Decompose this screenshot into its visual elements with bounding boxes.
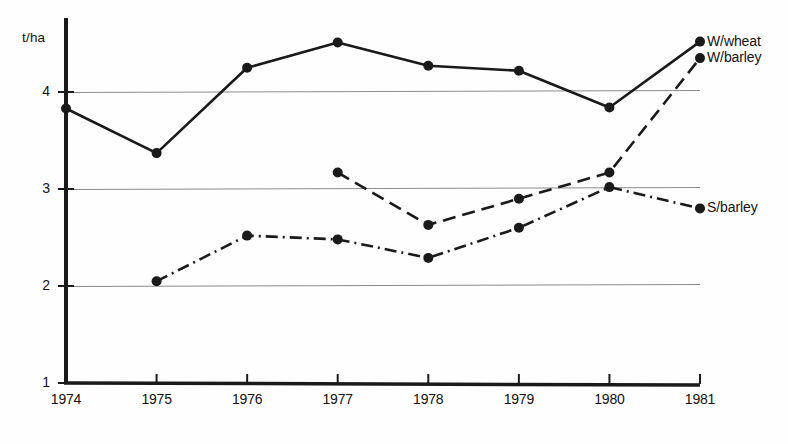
x-tick-label-1978: 1978 (401, 391, 455, 407)
data-point-w-wheat-1977 (333, 38, 343, 48)
data-point-w-wheat-1981 (695, 37, 705, 47)
series-label-w-wheat: W/wheat (707, 33, 761, 49)
data-series (61, 37, 705, 287)
chart-plot-area (0, 0, 788, 444)
y-tick-label-3: 3 (30, 180, 50, 196)
x-axis-line (64, 383, 700, 385)
x-tick-label-1980: 1980 (582, 391, 636, 407)
series-label-s-barley: S/barley (707, 199, 758, 215)
data-point-w-wheat-1980 (604, 103, 614, 113)
data-point-s-barley-1975 (152, 276, 162, 286)
data-point-w-barley-1981 (695, 53, 705, 63)
y-tick-label-2: 2 (30, 277, 50, 293)
series-line-w-wheat (66, 42, 700, 154)
chart-container: t/ha 1234 197419751976197719781979198019… (0, 0, 788, 444)
x-tick-label-1976: 1976 (220, 391, 274, 407)
data-point-s-barley-1981 (695, 203, 705, 213)
x-tick-label-1977: 1977 (311, 391, 365, 407)
y-tick-label-1: 1 (30, 374, 50, 390)
x-tick-label-1975: 1975 (130, 391, 184, 407)
x-tick-label-1979: 1979 (492, 391, 546, 407)
data-point-w-barley-1980 (604, 168, 614, 178)
gridline-4 (66, 91, 700, 93)
data-point-s-barley-1978 (423, 253, 433, 263)
data-point-w-wheat-1979 (514, 66, 524, 76)
series-label-w-barley: W/barley (707, 49, 761, 65)
data-point-w-wheat-1978 (423, 61, 433, 71)
data-point-s-barley-1979 (514, 223, 524, 233)
data-point-w-wheat-1975 (152, 148, 162, 158)
data-point-s-barley-1977 (333, 234, 343, 244)
y-tick-label-4: 4 (30, 83, 50, 99)
series-line-s-barley (157, 187, 700, 281)
data-point-w-wheat-1976 (242, 63, 252, 73)
data-point-s-barley-1980 (604, 182, 614, 192)
data-point-s-barley-1976 (242, 231, 252, 241)
data-point-w-barley-1978 (423, 220, 433, 230)
gridline-2 (66, 285, 700, 287)
data-point-w-barley-1979 (514, 194, 524, 204)
data-point-w-barley-1977 (333, 168, 343, 178)
data-point-w-wheat-1974 (61, 104, 71, 114)
x-tick-label-1974: 1974 (39, 391, 93, 407)
x-tick-label-1981: 1981 (673, 391, 727, 407)
chart-axes (64, 18, 700, 385)
axis-ticks (58, 92, 700, 384)
